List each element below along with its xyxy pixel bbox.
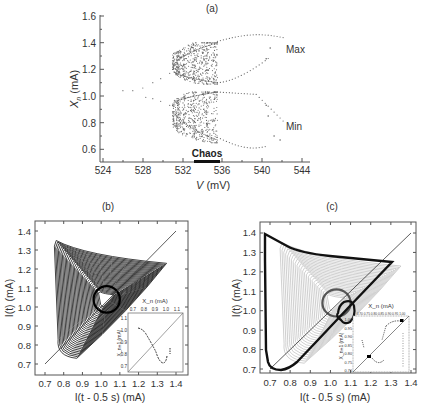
svg-text:1.3: 1.3 (18, 245, 31, 256)
svg-text:1.4: 1.4 (18, 226, 31, 237)
svg-text:1.0: 1.0 (324, 377, 337, 388)
c-inset-point-low (367, 355, 371, 358)
max-label: Max (286, 44, 305, 55)
svg-text:1.2: 1.2 (82, 64, 96, 75)
svg-text:1.1: 1.1 (174, 307, 181, 312)
svg-text:0.8: 0.8 (141, 307, 148, 312)
svg-text:0.7: 0.7 (243, 364, 256, 375)
a-y-ticks (100, 16, 104, 149)
svg-text:0.7: 0.7 (18, 359, 31, 370)
svg-text:0.90: 0.90 (345, 335, 352, 339)
svg-text:1.1: 1.1 (113, 378, 126, 389)
svg-text:0.95: 0.95 (345, 327, 352, 331)
svg-text:1.6: 1.6 (82, 11, 96, 22)
svg-text:1.4: 1.4 (243, 227, 256, 238)
svg-text:1.00: 1.00 (345, 318, 352, 322)
svg-text:1.3: 1.3 (243, 247, 256, 258)
svg-text:0.75: 0.75 (345, 361, 352, 365)
b-y-tick-labels: 0.7 0.8 0.9 1.0 1.1 1.2 1.3 1.4 (18, 226, 31, 370)
min-label: Min (286, 121, 302, 132)
c-x-tick-labels: 0.7 0.8 0.9 1.0 1.1 1.2 1.3 1.4 (263, 377, 417, 388)
svg-text:0.8: 0.8 (18, 340, 31, 351)
panel-a: (a) 1.6 1.4 1.2 1.0 0.8 0.6 (68, 3, 311, 191)
panel-a-title: (a) (206, 3, 218, 14)
svg-text:0.9: 0.9 (76, 378, 89, 389)
svg-text:1.0: 1.0 (94, 378, 107, 389)
svg-text:0.7: 0.7 (263, 377, 276, 388)
figure: (a) 1.6 1.4 1.2 1.0 0.8 0.6 (0, 0, 422, 416)
bifurcation-points (122, 34, 283, 148)
svg-text:0.8: 0.8 (243, 344, 256, 355)
c-inset-x-ticks: 0.70 0.75 0.80 0.85 0.90 0.95 1.00 (357, 312, 406, 316)
svg-text:0.9: 0.9 (304, 377, 317, 388)
b-inset-y-label: X_n+1 (mA) (116, 329, 122, 356)
svg-text:1.0: 1.0 (18, 302, 31, 313)
b-inset-x-ticks: 0.7 0.8 0.9 1.0 1.1 (130, 307, 181, 312)
c-y-label: I(t) (mA) (230, 279, 242, 318)
c-inset-y-ticks: 1.00 0.95 0.90 0.85 0.80 0.75 0.70 (345, 318, 352, 373)
svg-text:0.6: 0.6 (82, 144, 96, 155)
c-inset-x-label: X_n (mA) (368, 303, 393, 309)
svg-text:0.8: 0.8 (82, 118, 96, 129)
a-x-tick-labels: 524 528 532 536 540 544 (95, 165, 311, 176)
svg-text:1.0: 1.0 (243, 305, 256, 316)
a-y-label: Xn (mA) (68, 70, 82, 109)
svg-text:1.3: 1.3 (384, 377, 397, 388)
svg-text:544: 544 (294, 165, 311, 176)
svg-text:1.2: 1.2 (364, 377, 377, 388)
svg-text:1.4: 1.4 (404, 377, 417, 388)
svg-text:528: 528 (135, 165, 152, 176)
svg-text:1.1: 1.1 (344, 377, 357, 388)
panel-c-title: (c) (326, 201, 338, 212)
svg-text:524: 524 (95, 165, 112, 176)
svg-text:1.1: 1.1 (18, 283, 31, 294)
c-inset-y-label: X_n+1 (mA) (338, 332, 344, 359)
chaos-label: Chaos (192, 148, 223, 159)
svg-text:1.2: 1.2 (243, 266, 256, 277)
svg-text:0.7: 0.7 (121, 364, 128, 369)
svg-text:0.9: 0.9 (18, 321, 31, 332)
b-x-label: I(t - 0.5 s) (mA) (75, 391, 146, 403)
svg-text:536: 536 (214, 165, 231, 176)
c-x-label: I(t - 0.5 s) (mA) (300, 391, 371, 403)
b-y-label: I(t) (mA) (3, 279, 15, 318)
panel-b: (b) 0.7 0.8 0.9 1.0 1.1 1.2 1.3 1.4 0.7 … (3, 201, 188, 403)
panel-c: (c) 0.7 0.8 0.9 1.0 1.1 1.2 1.3 1.4 0.7 … (230, 201, 418, 403)
b-inset-x-label: X_n (mA) (142, 298, 167, 304)
svg-text:0.7: 0.7 (38, 378, 51, 389)
panel-b-title: (b) (102, 201, 114, 212)
b-x-tick-labels: 0.7 0.8 0.9 1.0 1.1 1.2 1.3 1.4 (38, 378, 182, 389)
svg-text:1.0: 1.0 (163, 307, 170, 312)
svg-text:0.9: 0.9 (152, 307, 159, 312)
svg-text:1.4: 1.4 (82, 38, 96, 49)
svg-text:0.9: 0.9 (243, 325, 256, 336)
svg-text:0.70: 0.70 (345, 369, 352, 373)
svg-text:1.1: 1.1 (121, 316, 128, 321)
svg-text:0.8: 0.8 (57, 378, 70, 389)
svg-text:1.1: 1.1 (243, 286, 256, 297)
svg-text:0.80: 0.80 (345, 352, 352, 356)
c-y-tick-labels: 0.7 0.8 0.9 1.0 1.1 1.2 1.3 1.4 (243, 227, 256, 375)
c-inset-point-high (400, 319, 404, 322)
svg-text:1.4: 1.4 (169, 378, 182, 389)
svg-text:1.3: 1.3 (151, 378, 164, 389)
svg-text:532: 532 (175, 165, 192, 176)
a-y-tick-labels: 1.6 1.4 1.2 1.0 0.8 0.6 (82, 11, 96, 155)
svg-text:1.2: 1.2 (132, 378, 145, 389)
svg-text:0.8: 0.8 (283, 377, 296, 388)
svg-text:0.85: 0.85 (345, 344, 352, 348)
svg-text:0.7: 0.7 (130, 307, 137, 312)
a-x-label: V (mV) (196, 179, 230, 191)
svg-text:1.0: 1.0 (82, 91, 96, 102)
svg-text:1.2: 1.2 (18, 264, 31, 275)
svg-text:540: 540 (254, 165, 271, 176)
